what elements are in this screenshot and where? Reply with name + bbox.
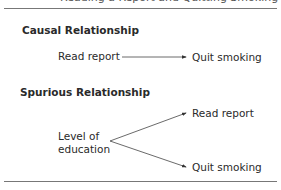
bottom-divider: [4, 181, 277, 182]
spurious-arrow-top: [110, 113, 186, 141]
diagram-arrows: [0, 0, 281, 190]
spurious-arrow-bottom: [110, 141, 186, 167]
